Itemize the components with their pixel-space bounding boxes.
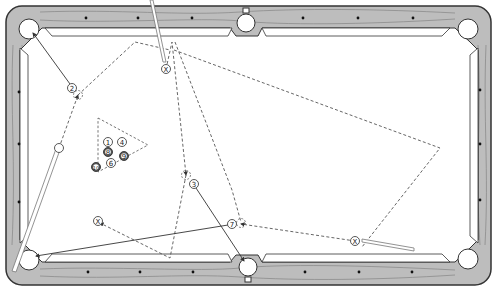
felt-surface: [20, 28, 478, 262]
ball-6: 6: [107, 159, 116, 168]
svg-text:7: 7: [230, 221, 234, 229]
cue-ball-start: [55, 144, 64, 153]
cue-ball-x-2: X: [94, 217, 103, 226]
table-rails: [6, 6, 491, 285]
ball-8: 8: [104, 148, 113, 157]
ball-3: 3: [190, 180, 199, 189]
pocket-bottom-right: [458, 249, 478, 269]
svg-text:9: 9: [122, 153, 126, 161]
svg-text:2: 2: [70, 85, 74, 93]
svg-text:6: 6: [109, 160, 114, 168]
svg-text:8: 8: [106, 149, 110, 157]
svg-text:4: 4: [120, 139, 125, 147]
pocket-bottom-middle: [239, 258, 257, 276]
svg-text:1: 1: [106, 139, 110, 147]
svg-text:X: X: [353, 238, 358, 246]
cue-ball-x-1: X: [162, 65, 171, 74]
pocket-top-right: [458, 19, 478, 39]
pool-table-diagram: X X X 1 4 8 9 6: [0, 0, 497, 290]
svg-text:X: X: [96, 218, 101, 226]
pocket-top-middle: [237, 14, 255, 32]
svg-text:X: X: [164, 66, 169, 74]
ball-10: 10: [92, 163, 101, 172]
ball-2: 2: [68, 84, 77, 93]
ball-9: 9: [120, 152, 129, 161]
svg-text:3: 3: [192, 181, 196, 189]
svg-text:10: 10: [93, 165, 99, 171]
ball-1: 1: [104, 138, 113, 147]
cue-ball-x-3: X: [351, 237, 360, 246]
pocket-top-left: [19, 19, 39, 39]
ball-4: 4: [118, 138, 127, 147]
ball-7: 7: [228, 220, 237, 229]
